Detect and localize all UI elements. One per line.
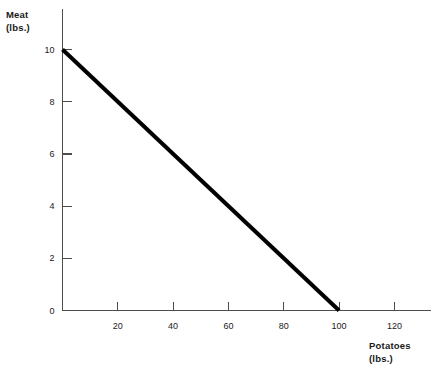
budget-constraint-line xyxy=(63,50,340,311)
x-axis-tick-label: 20 xyxy=(113,321,123,331)
x-axis-tick-label: 100 xyxy=(332,321,347,331)
y-axis-tick-label: 2 xyxy=(19,253,55,263)
x-axis-tick-label: 80 xyxy=(279,321,289,331)
plot-area xyxy=(0,0,435,368)
x-axis-tick-label: 120 xyxy=(387,321,402,331)
y-axis-ticks xyxy=(63,50,72,259)
x-axis-tick-label: 40 xyxy=(168,321,178,331)
x-axis-tick-label: 60 xyxy=(223,321,233,331)
y-axis-tick-label: 6 xyxy=(19,149,55,159)
y-axis-tick-label: 0 xyxy=(19,306,55,316)
y-axis-tick-label: 10 xyxy=(19,45,55,55)
data-series xyxy=(63,50,340,311)
x-axis-ticks xyxy=(118,302,395,311)
axes xyxy=(63,9,432,311)
y-axis-tick-label: 8 xyxy=(19,97,55,107)
budget-constraint-chart: Meat (lbs.) Potatoes (lbs.) 024681020406… xyxy=(0,0,435,368)
y-axis-tick-label: 4 xyxy=(19,201,55,211)
